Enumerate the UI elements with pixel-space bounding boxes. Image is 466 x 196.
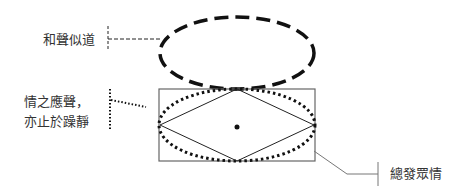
emotion-connector — [111, 100, 146, 107]
label-harmony: 和聲似道 — [43, 31, 95, 48]
dashed-ellipse — [160, 17, 314, 89]
diagram-root: 和聲似道 情之應聲， 亦止於躁靜 總發眾情 — [0, 0, 466, 196]
total-connector — [314, 151, 378, 174]
center-dot — [235, 125, 240, 130]
label-total: 總發眾情 — [390, 165, 442, 182]
label-emotion-line1: 情之應聲， — [24, 93, 89, 110]
label-emotion-line2: 亦止於躁靜 — [24, 113, 89, 130]
